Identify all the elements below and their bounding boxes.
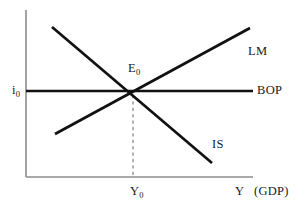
i0-base: i: [12, 83, 15, 97]
lm-curve-label: LM: [248, 45, 267, 58]
i0-axis-label: i0: [12, 84, 20, 97]
lm-curve: [55, 28, 250, 134]
e0-base: E: [128, 61, 136, 75]
diagram-canvas: [0, 0, 307, 213]
is-curve-label: IS: [212, 138, 224, 151]
bop-curve-label: BOP: [257, 84, 282, 97]
e0-equilibrium-label: E0: [128, 62, 140, 75]
y0-subscript: 0: [139, 190, 143, 200]
is-curve: [52, 27, 212, 163]
x-axis-name-label: Y: [235, 185, 244, 198]
x-axis-unit-label: (GDP): [254, 185, 289, 198]
i0-subscript: 0: [16, 89, 20, 99]
y0-axis-label: Y0: [130, 185, 143, 198]
e0-subscript: 0: [136, 67, 140, 77]
y0-base: Y: [130, 184, 139, 198]
isl-lm-bop-figure: LM BOP IS i0 E0 Y0 Y (GDP): [0, 0, 307, 213]
